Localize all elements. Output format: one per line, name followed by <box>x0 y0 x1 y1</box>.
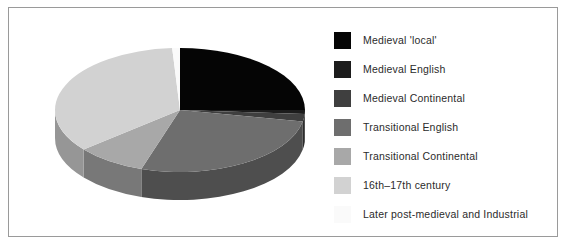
legend-swatch-icon <box>334 206 351 223</box>
legend-item-medieval-continental[interactable]: Medieval Continental <box>334 84 558 113</box>
legend-swatch-icon <box>334 148 351 165</box>
pie-slice[interactable] <box>180 48 305 110</box>
legend-item-label: Medieval 'local' <box>363 35 437 46</box>
chart-figure: Medieval 'local' Medieval English Mediev… <box>0 0 568 251</box>
chart-legend: Medieval 'local' Medieval English Mediev… <box>334 26 558 226</box>
pie-top-face <box>55 48 305 172</box>
pie-chart <box>8 7 328 237</box>
legend-swatch-icon <box>334 119 351 136</box>
legend-item-medieval-local[interactable]: Medieval 'local' <box>334 26 558 55</box>
legend-item-16th-17th-century[interactable]: 16th–17th century <box>334 171 558 200</box>
legend-item-label: Later post-medieval and Industrial <box>363 209 528 220</box>
legend-item-label: 16th–17th century <box>363 180 450 191</box>
legend-swatch-icon <box>334 61 351 78</box>
legend-item-label: Transitional English <box>363 122 458 133</box>
legend-swatch-icon <box>334 177 351 194</box>
legend-item-label: Transitional Continental <box>363 151 478 162</box>
legend-item-label: Medieval Continental <box>363 93 465 104</box>
legend-item-medieval-english[interactable]: Medieval English <box>334 55 558 84</box>
legend-item-later-post-medieval-industrial[interactable]: Later post-medieval and Industrial <box>334 200 558 229</box>
legend-item-label: Medieval English <box>363 64 446 75</box>
legend-item-transitional-continental[interactable]: Transitional Continental <box>334 142 558 171</box>
legend-swatch-icon <box>334 32 351 49</box>
legend-swatch-icon <box>334 90 351 107</box>
pie-chart-svg <box>8 7 328 237</box>
legend-item-transitional-english[interactable]: Transitional English <box>334 113 558 142</box>
